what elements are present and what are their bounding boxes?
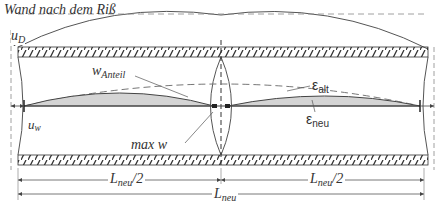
label-eps-alt: εalt (312, 78, 329, 95)
label-max-w: max w (131, 138, 167, 152)
diagram-title: Wand nach dem Riß (4, 3, 116, 17)
label-l-half-left: Lneu/2 (108, 172, 145, 188)
wall-crack-diagram: Wand nach dem Riß uD uw wAnteil max w εa… (0, 0, 439, 204)
label-u-w: uw (28, 118, 41, 134)
label-w-anteil: wAnteil (92, 64, 125, 80)
top-wall (18, 47, 428, 57)
bottom-wall (18, 155, 428, 165)
diagram-canvas (0, 0, 439, 204)
w-area-right (228, 96, 420, 106)
w-area-left (24, 93, 214, 106)
label-l-half-right: Lneu/2 (308, 172, 345, 188)
leader-max-w (185, 112, 213, 143)
top-arc-right (221, 11, 428, 49)
label-eps-neu: εneu (306, 112, 329, 129)
label-u-d: uD (11, 29, 25, 45)
label-l-total: Lneu (212, 187, 238, 203)
